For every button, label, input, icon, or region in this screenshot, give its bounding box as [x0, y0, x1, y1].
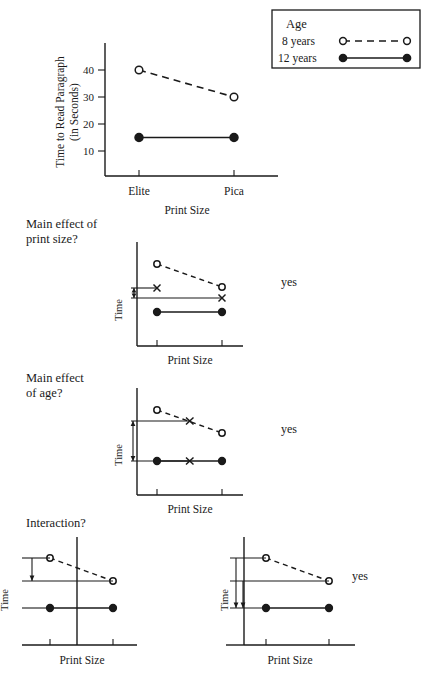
- legend-swatch-12-years: [339, 54, 410, 61]
- panel4-point-12y-right: [110, 605, 117, 612]
- open-circle-icon: [404, 38, 411, 45]
- answer-print-size: yes: [281, 275, 297, 289]
- panel2-point-12y-left: [154, 309, 161, 316]
- panel5-x-label: Print Size: [267, 654, 312, 666]
- panel3-effect-arrow: [131, 421, 136, 461]
- factorial-design-figure: Age 8 years 12 years 40 30 20 10: [0, 0, 425, 676]
- legend: Age 8 years 12 years: [272, 10, 420, 68]
- panel3-y-label: Time: [113, 444, 124, 466]
- panel2-effect-arrow: [132, 288, 137, 298]
- data-point-12y-pica: [230, 134, 238, 142]
- panel-interaction-left: Time Print Size: [0, 537, 137, 666]
- y-tick-label-30: 30: [83, 91, 95, 103]
- panel2-point-8y-right: [219, 284, 225, 290]
- panel3-x-label: Print Size: [167, 503, 212, 515]
- y-axis-title-line2: (in Seconds): [68, 83, 81, 141]
- question-age-line2: of age?: [26, 386, 63, 400]
- series-12-years: [135, 134, 238, 142]
- panel2-point-8y-left: [154, 261, 160, 267]
- y-tick-label-20: 20: [83, 118, 95, 130]
- y-tick-label-40: 40: [83, 64, 95, 76]
- data-point-8y-elite: [135, 66, 143, 74]
- panel4-effect-arrow: [30, 558, 35, 581]
- question-print-size-line2: print size?: [26, 232, 78, 246]
- panel5-y-label: Time: [219, 589, 230, 611]
- filled-circle-icon: [403, 54, 410, 61]
- figure-container: Age 8 years 12 years 40 30 20 10: [0, 0, 425, 676]
- answer-age: yes: [281, 422, 297, 436]
- panel-interaction-right: Time Print Size: [219, 537, 355, 666]
- panel3-point-8y-left: [154, 407, 160, 413]
- panel2-y-label: Time: [113, 299, 124, 321]
- panel5-point-12y-right: [326, 605, 333, 612]
- panel5-effect-arrow-long: [234, 558, 239, 608]
- legend-title: Age: [286, 17, 307, 31]
- data-point-12y-elite: [135, 134, 143, 142]
- legend-label-12-years: 12 years: [278, 52, 317, 65]
- panel-print-size: Time Print Size: [113, 242, 243, 366]
- panel4-y-label: Time: [0, 589, 10, 611]
- x-tick-label-elite: Elite: [128, 185, 150, 197]
- filled-circle-icon: [339, 54, 346, 61]
- y-ticks: [98, 70, 105, 151]
- series-8-years: [135, 66, 238, 101]
- question-age-line1: Main effect: [26, 371, 84, 385]
- data-point-8y-pica: [230, 93, 238, 101]
- legend-swatch-8-years: [340, 38, 411, 45]
- panel-age: Time Print Size: [113, 388, 243, 515]
- main-chart: 40 30 20 10 Time to Read Paragraph (in S…: [54, 43, 278, 216]
- answer-interaction: yes: [352, 569, 368, 583]
- question-print-size-line1: Main effect of: [26, 217, 98, 231]
- panel2-point-12y-right: [219, 309, 226, 316]
- panel4-x-label: Print Size: [59, 654, 104, 666]
- panel3-point-12y-right: [219, 458, 226, 465]
- open-circle-icon: [340, 38, 347, 45]
- panel3-point-8y-right: [219, 430, 225, 436]
- x-axis-title: Print Size: [164, 204, 209, 216]
- y-axis-title-line1: Time to Read Paragraph: [54, 56, 67, 168]
- panel2-x-label: Print Size: [167, 354, 212, 366]
- question-interaction: Interaction?: [26, 516, 86, 530]
- y-tick-label-10: 10: [83, 145, 95, 157]
- legend-label-8-years: 8 years: [282, 35, 315, 48]
- x-tick-label-pica: Pica: [224, 185, 244, 197]
